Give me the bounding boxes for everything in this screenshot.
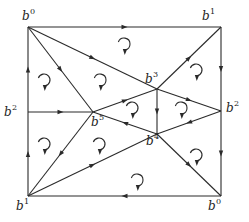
face-rotation-center-icon [126, 102, 138, 119]
arrowhead-icon [26, 67, 30, 73]
vertex-superscript-ml: 2 [12, 103, 17, 112]
arrowhead-icon [26, 151, 30, 157]
arrowhead-icon [58, 110, 64, 114]
arrowhead-icon [121, 99, 127, 103]
face-rotation-top-icon [118, 38, 130, 55]
arrowhead-icon [122, 122, 128, 126]
vertex-superscript-c3: 3 [153, 70, 158, 79]
face-rotation-upper-left-icon [94, 74, 106, 91]
vertex-label-c4: b [146, 134, 154, 148]
arrowhead-icon [122, 194, 128, 198]
arrowhead-icon [155, 109, 159, 115]
vertex-superscript-br: 0 [216, 197, 221, 206]
arrowhead-icon [89, 55, 95, 60]
vertex-label-c5: b [91, 115, 99, 129]
face-rotation-left-bottom-icon [38, 138, 50, 155]
arrowhead-icon [186, 119, 192, 123]
face-rotation-bottom-icon [131, 174, 143, 191]
face-rotation-upper-right-icon [190, 64, 202, 81]
vertex-label-br: b [208, 199, 216, 213]
vertex-label-c3: b [145, 72, 153, 86]
arrowhead-icon [219, 66, 223, 72]
vertex-superscript-mr: 2 [234, 99, 239, 108]
face-rotation-right-lower-icon [190, 149, 202, 166]
face-rotation-right-inner-icon [175, 102, 187, 119]
face-rotation-lower-middle-icon [93, 138, 105, 155]
arrowhead-icon [219, 151, 223, 157]
face-orientations-layer [38, 38, 202, 191]
vertex-superscript-tr: 1 [210, 7, 215, 16]
vertex-superscript-tl: 0 [30, 7, 35, 16]
vertex-label-tl: b [22, 9, 30, 23]
vertex-superscript-bl: 1 [24, 197, 29, 206]
vertex-label-bl: b [16, 199, 24, 213]
face-rotation-left-top-icon [38, 74, 50, 91]
graph-diagram: b0b1b2b2b1b0b3b5b4 [0, 0, 249, 222]
vertex-label-ml: b [4, 105, 12, 119]
vertex-label-mr: b [226, 101, 234, 115]
arrowhead-icon [122, 25, 128, 29]
vertex-superscript-c5: 5 [99, 113, 104, 122]
arrowhead-icon [89, 164, 95, 169]
arrowhead-icon [185, 97, 191, 101]
vertex-superscript-c4: 4 [154, 132, 159, 141]
vertex-label-tr: b [202, 9, 210, 23]
